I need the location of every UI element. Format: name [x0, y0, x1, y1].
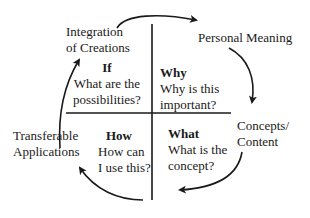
label-transferable-applications: Transferable Applications	[13, 128, 79, 160]
label-personal-meaning: Personal Meaning	[198, 30, 292, 46]
quadrant-if: If What are the possibilities?	[73, 60, 141, 108]
quadrant-how: How How can I use this?	[98, 128, 151, 176]
label-concepts-content: Concepts/ Content	[237, 118, 289, 150]
arrow-right	[229, 48, 253, 102]
quadrant-heading: What	[168, 126, 227, 142]
quadrant-heading: Why	[160, 65, 219, 81]
quadrant-heading: How	[98, 128, 151, 144]
quadrant-why: Why Why is this important?	[160, 65, 219, 113]
quadrant-heading: If	[73, 60, 141, 76]
quadrant-what: What What is the concept?	[168, 126, 227, 174]
label-integration-of-creations: Integration of Creations	[66, 24, 130, 56]
